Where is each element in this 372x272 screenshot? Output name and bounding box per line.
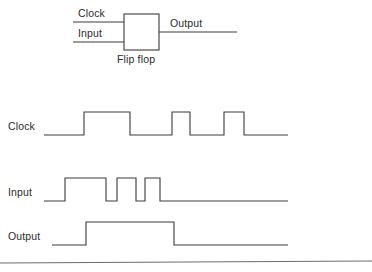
footer-divider [0,261,372,263]
block-output-label: Output [170,18,202,29]
output-waveform [52,222,288,245]
figure-canvas: Clock Input Output Flip flop Clock Input… [0,0,372,272]
flip-flop-block-label: Flip flop [117,54,155,65]
flip-flop-box [124,14,159,50]
clock-waveform [44,112,288,135]
waveform-label-output: Output [8,231,40,242]
input-waveform [44,178,288,201]
block-clock-label: Clock [78,8,105,19]
waveform-label-clock: Clock [8,121,35,132]
figure-svg [0,0,372,272]
block-input-label: Input [78,28,102,39]
waveform-group [44,112,288,245]
waveform-label-input: Input [8,187,32,198]
